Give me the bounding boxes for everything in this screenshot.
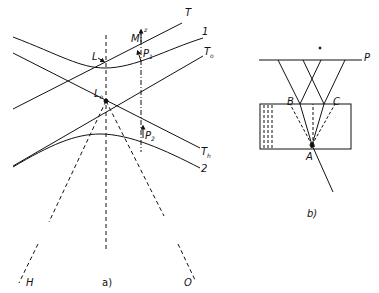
dashed-ray-A-C	[312, 104, 335, 145]
label-A: A	[305, 151, 313, 162]
label-T0: To	[204, 46, 214, 59]
label-P: P	[364, 52, 371, 63]
label-O: O	[184, 277, 192, 288]
label-T: T	[185, 7, 192, 18]
dashed-line-O-lower	[178, 244, 195, 280]
label-Th: Th	[201, 146, 211, 159]
label-z: z	[143, 26, 148, 33]
label-M: M	[131, 33, 140, 44]
diagram-canvas: T 1 To Th 2 L Lo M z P1 P2 H O a)	[0, 0, 379, 293]
ray-A-to-C	[312, 104, 324, 145]
point-L0	[104, 99, 108, 103]
ray-B-right	[300, 60, 321, 104]
ray-A-to-B	[300, 104, 312, 145]
dot	[319, 47, 321, 49]
caption-b: b)	[307, 208, 317, 219]
caption-a: a)	[102, 277, 112, 288]
crystal-block	[260, 104, 351, 149]
label-B: B	[287, 96, 294, 107]
panel-b	[259, 47, 362, 192]
label-H: H	[26, 277, 34, 288]
arrow-L	[98, 58, 103, 61]
label-L0: Lo	[94, 88, 104, 100]
label-P1: P1	[143, 48, 153, 60]
ray-C-left	[303, 60, 324, 104]
line-T0	[13, 56, 203, 166]
panel-a-labels: T 1 To Th 2 L Lo M z P1 P2 H O a)	[26, 7, 214, 288]
panel-b-labels: P B C A b)	[287, 52, 371, 219]
panel-a	[13, 23, 203, 283]
point-A	[310, 143, 314, 147]
dashed-ray-A-B	[290, 104, 312, 145]
label-2: 2	[201, 163, 207, 174]
incident-ray	[312, 145, 333, 192]
label-L: L	[92, 51, 98, 62]
dashed-line-O	[106, 101, 164, 216]
label-1: 1	[202, 26, 208, 37]
dispersion-branch-1	[13, 37, 203, 68]
label-C: C	[333, 96, 340, 107]
dashed-line-H	[49, 101, 106, 222]
label-P2: P2	[145, 130, 155, 142]
